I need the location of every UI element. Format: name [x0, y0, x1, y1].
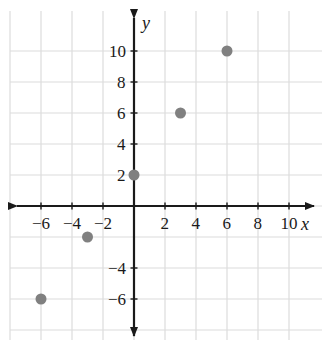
plot-canvas: [0, 0, 332, 351]
x-tick-label: 10: [281, 215, 298, 232]
x-axis-label: x: [301, 215, 309, 233]
y-tick-label: −6: [108, 291, 126, 308]
x-tick-label: −2: [94, 215, 112, 232]
x-tick-label: −6: [32, 215, 50, 232]
data-point: [36, 294, 47, 305]
x-tick-label: 4: [192, 215, 201, 232]
x-tick-label: 8: [254, 215, 263, 232]
y-axis-label: y: [142, 14, 150, 32]
data-point: [129, 170, 140, 181]
coordinate-plane-scatter-plot: −6−4−2246810 108642−4−6 x y: [0, 0, 332, 351]
y-tick-label: −4: [108, 260, 126, 277]
x-tick-label: 6: [223, 215, 232, 232]
y-tick-label: 4: [117, 136, 126, 153]
data-point: [175, 108, 186, 119]
y-tick-label: 10: [109, 43, 126, 60]
x-tick-label: 2: [161, 215, 170, 232]
x-tick-label: −4: [63, 215, 81, 232]
data-point: [82, 232, 93, 243]
grid-lines: [10, 11, 322, 340]
y-tick-label: 8: [117, 74, 126, 91]
data-point: [222, 46, 233, 57]
y-tick-label: 6: [117, 105, 126, 122]
y-tick-label: 2: [117, 167, 126, 184]
